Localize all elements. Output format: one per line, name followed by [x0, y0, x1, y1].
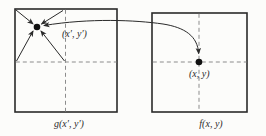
converging-arrow-from-top-icon: [42, 11, 64, 25]
converging-arrow-from-top-left-icon: [16, 10, 33, 24]
geometric-transformation-figure: (x′, y′) (x, y) g(x′, y′) f(x, y): [0, 0, 266, 136]
right-point-label: (x, y): [189, 68, 210, 80]
right-square-caption: f(x, y): [199, 118, 223, 130]
point-x-y: [196, 59, 203, 66]
converging-arrow-from-center-icon: [41, 31, 65, 61]
point-x-prime-y-prime: [34, 24, 41, 31]
converging-arrow-from-left-icon: [17, 31, 34, 61]
left-point-label: (x′, y′): [62, 28, 88, 40]
diagram-canvas: (x′, y′) (x, y) g(x′, y′) f(x, y): [0, 0, 266, 136]
left-square-caption: g(x′, y′): [54, 118, 85, 130]
